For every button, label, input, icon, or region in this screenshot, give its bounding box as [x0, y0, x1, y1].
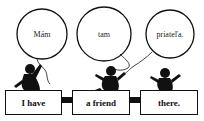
- box-label: I have: [22, 98, 46, 108]
- box-label: a friend: [86, 98, 116, 108]
- balloon-label: priateľa.: [150, 30, 190, 39]
- word-box: I have: [5, 90, 62, 115]
- word-box: there.: [140, 90, 198, 115]
- balloon-label: Mám: [22, 30, 62, 39]
- word-box: a friend: [72, 90, 130, 115]
- illustration: Mám tam priateľa. I have a friend there.: [0, 0, 204, 121]
- box-label: there.: [158, 98, 180, 108]
- balloon-label: tam: [84, 30, 124, 39]
